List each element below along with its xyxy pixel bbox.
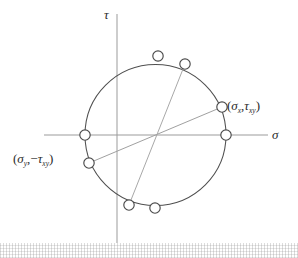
scan-artifact-strip xyxy=(0,243,298,258)
marker-top-left xyxy=(153,51,163,61)
mohr-circle-canvas xyxy=(0,0,298,258)
paren-close: ) xyxy=(256,98,260,113)
sigma-subscript: y xyxy=(24,159,27,168)
marker-bottom-right xyxy=(150,203,160,213)
tau-subscript: xy xyxy=(42,159,49,168)
tau-axis-label: τ xyxy=(104,8,109,21)
sigma-axis-label: σ xyxy=(272,128,278,141)
marker-sigma-x-tau-xy xyxy=(217,102,227,112)
sigma-glyph: σ xyxy=(231,98,237,113)
sigma-glyph: σ xyxy=(17,151,23,166)
marker-top-right xyxy=(180,59,190,69)
paren-close: ) xyxy=(49,151,53,166)
minus-glyph: − xyxy=(30,151,37,166)
sigma-subscript: x xyxy=(238,106,241,115)
mohr-circle-figure: τ σ (σx,τxy) (σy,−τxy) xyxy=(0,0,298,258)
marker-sigma-2 xyxy=(80,130,90,140)
point-label-sigma-y-neg-tau-xy: (σy,−τxy) xyxy=(13,152,53,165)
point-label-sigma-x-tau-xy: (σx,τxy) xyxy=(227,99,260,112)
tau-subscript: xy xyxy=(249,106,256,115)
marker-sigma-1 xyxy=(221,130,231,140)
marker-bottom-left xyxy=(124,200,134,210)
marker-sigma-y-neg-tau-xy xyxy=(84,158,94,168)
